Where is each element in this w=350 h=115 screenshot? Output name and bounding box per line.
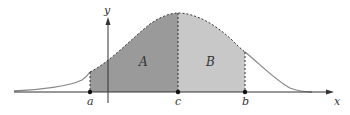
region-b-label: B — [205, 55, 215, 69]
point-b-label: b — [242, 95, 249, 108]
point-a-label: a — [87, 95, 94, 108]
point-a-marker — [88, 90, 92, 94]
point-c-marker — [176, 90, 180, 94]
point-c-label: c — [175, 95, 181, 108]
x-axis-arrow-icon — [326, 90, 334, 95]
curve-left-tail — [14, 72, 90, 91]
region-a-label: A — [138, 55, 148, 69]
area-diagram: y x a c b A B — [0, 0, 350, 115]
curve-right-tail — [245, 52, 312, 92]
y-axis-label: y — [103, 4, 111, 17]
point-b-marker — [243, 90, 247, 94]
region-b — [178, 13, 245, 92]
x-axis-label: x — [334, 95, 341, 108]
y-axis-arrow-icon — [106, 17, 111, 25]
region-a — [90, 13, 178, 92]
